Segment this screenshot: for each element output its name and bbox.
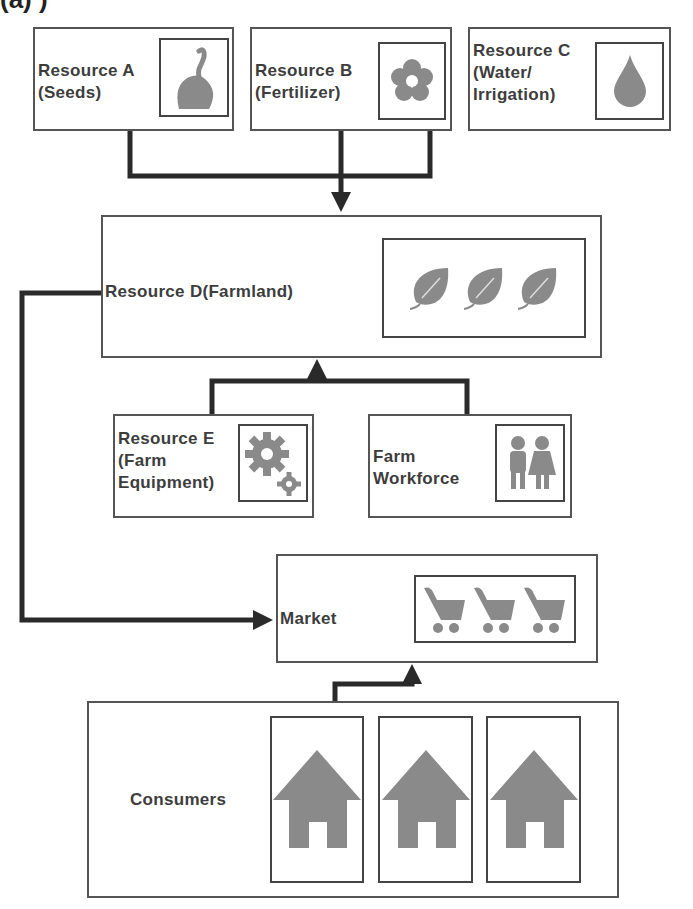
workforce-label-1: Farm [373, 446, 459, 468]
consumer-house-frame-1 [270, 716, 364, 883]
node-market: Market [276, 554, 598, 663]
resource-d-label: Resource D(Farmland) [105, 281, 293, 303]
resource-e-label-2: (Farm [118, 450, 215, 472]
resource-e-label-1: Resource E [118, 428, 215, 450]
shopping-cart-icon [472, 584, 518, 634]
resource-c-icon-frame [595, 42, 664, 120]
resource-c-label-3: Irrigation) [473, 84, 570, 106]
resource-e-label-3: Equipment) [118, 472, 215, 494]
node-resource-d: Resource D(Farmland) [101, 215, 602, 358]
leaf-icon [462, 264, 506, 312]
resource-a-icon-frame [159, 38, 229, 117]
gears-icon [243, 428, 303, 498]
water-drop-icon [612, 53, 648, 109]
people-icon [504, 433, 556, 493]
resource-b-label-1: Resource B [255, 60, 352, 82]
resource-a-label-2: (Seeds) [38, 82, 135, 104]
node-resource-e: Resource E (Farm Equipment) [113, 414, 314, 518]
shopping-cart-icon [522, 584, 568, 634]
resource-c-label-2: (Water/ [473, 62, 570, 84]
node-resource-b: Resource B (Fertilizer) [250, 27, 452, 131]
house-icon [273, 750, 361, 850]
house-icon [382, 750, 470, 850]
resource-c-label-1: Resource C [473, 40, 570, 62]
flower-icon [389, 58, 435, 104]
house-icon [490, 750, 578, 850]
resource-d-icon-frame [382, 238, 586, 338]
node-resource-a: Resource A (Seeds) [33, 27, 234, 131]
resource-b-icon-frame [378, 42, 446, 120]
resource-e-icon-frame [238, 424, 308, 502]
leaf-icon [516, 264, 560, 312]
consumer-house-frame-3 [486, 716, 581, 883]
node-resource-c: Resource C (Water/ Irrigation) [468, 27, 671, 131]
seed-sprout-icon [169, 43, 219, 113]
arrow-consumers-to-market [335, 671, 412, 701]
consumers-label: Consumers [130, 789, 226, 811]
workforce-label-2: Workforce [373, 468, 459, 490]
workforce-icon-frame [495, 424, 565, 502]
consumer-house-frame-2 [378, 716, 473, 883]
shopping-cart-icon [422, 584, 468, 634]
node-consumers: Consumers [87, 701, 619, 898]
resource-b-label-2: (Fertilizer) [255, 82, 352, 104]
resource-a-label-1: Resource A [38, 60, 135, 82]
market-icon-frame [414, 575, 576, 643]
market-label: Market [280, 608, 337, 630]
leaf-icon [408, 264, 452, 312]
node-farm-workforce: Farm Workforce [368, 414, 572, 518]
connector-a-c [130, 130, 430, 176]
